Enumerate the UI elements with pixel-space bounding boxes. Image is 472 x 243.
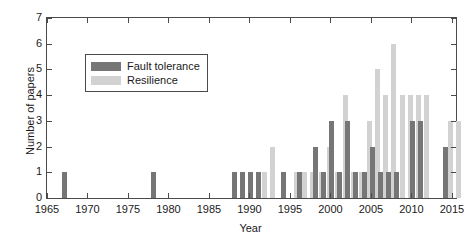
bar-fault_tolerance-2001: [337, 172, 342, 198]
bar-fault_tolerance-2003: [353, 172, 358, 198]
bar-fault_tolerance-1999: [321, 172, 326, 198]
bar-fault_tolerance-2014: [443, 147, 448, 198]
bar-fill: [270, 147, 275, 198]
y-tick-right: [451, 95, 456, 96]
y-tick-right: [451, 121, 456, 122]
y-tick: [47, 121, 52, 122]
y-tick: [47, 172, 52, 173]
bar-fill: [378, 172, 383, 198]
x-tick-top: [411, 18, 412, 23]
bar-resilience-2014: [448, 121, 453, 198]
x-tick-top: [168, 18, 169, 23]
bar-fill: [345, 121, 350, 198]
bar-fill: [151, 172, 156, 198]
bar-fault_tolerance-2007: [386, 172, 391, 198]
x-tick-top: [87, 18, 88, 23]
bar-fill: [370, 147, 375, 198]
legend-swatch: [91, 76, 121, 85]
x-tick: [452, 193, 453, 198]
y-tick-label: 0: [36, 191, 42, 203]
x-tick-label: 2015: [436, 203, 468, 215]
legend-item-0: Fault tolerance: [91, 59, 200, 73]
bar-fault_tolerance-1991: [256, 172, 261, 198]
bar-fill: [424, 95, 429, 198]
bar-resilience-1992: [270, 147, 275, 198]
bar-fill: [400, 95, 405, 198]
y-tick-right: [451, 198, 456, 199]
x-tick-top: [47, 18, 48, 23]
x-tick: [249, 193, 250, 198]
x-tick: [47, 193, 48, 198]
bar-fault_tolerance-1996: [297, 172, 302, 198]
x-tick-label: 1970: [71, 203, 103, 215]
bar-fill: [262, 172, 267, 198]
bar-fill: [297, 172, 302, 198]
x-tick: [128, 193, 129, 198]
bar-resilience-2008: [400, 95, 405, 198]
bar-fill: [240, 172, 245, 198]
y-tick-label: 3: [36, 114, 42, 126]
bar-fault_tolerance-1978: [151, 172, 156, 198]
y-tick: [47, 44, 52, 45]
bar-fill: [329, 121, 334, 198]
y-tick: [47, 198, 52, 199]
legend-label: Resilience: [127, 74, 178, 86]
bar-resilience-1991: [262, 172, 267, 198]
bar-resilience-1996: [302, 172, 307, 198]
y-tick-label: 6: [36, 37, 42, 49]
legend-label: Fault tolerance: [127, 60, 200, 72]
x-tick: [87, 193, 88, 198]
bar-fault_tolerance-2002: [345, 121, 350, 198]
bar-fill: [302, 172, 307, 198]
bar-fill: [362, 172, 367, 198]
x-tick-label: 2005: [355, 203, 387, 215]
bar-resilience-2011: [424, 95, 429, 198]
bar-resilience-2015: [456, 121, 461, 198]
y-tick: [47, 95, 52, 96]
bar-chart-figure: Number of papers 01234567196519701975198…: [0, 0, 472, 243]
y-axis-title: Number of papers: [24, 21, 36, 201]
y-tick-label: 5: [36, 62, 42, 74]
bar-fault_tolerance-2000: [329, 121, 334, 198]
x-tick: [330, 193, 331, 198]
bar-fill: [281, 172, 286, 198]
x-tick-top: [209, 18, 210, 23]
bar-fault_tolerance-1988: [232, 172, 237, 198]
plot-area: 0123456719651970197519801985199019952000…: [46, 17, 457, 199]
y-tick: [47, 69, 52, 70]
bar-fill: [448, 121, 453, 198]
x-tick: [209, 193, 210, 198]
legend-swatch: [91, 62, 121, 71]
x-tick-label: 1985: [193, 203, 225, 215]
x-tick-top: [128, 18, 129, 23]
y-tick-right: [451, 172, 456, 173]
bar-fill: [232, 172, 237, 198]
y-tick-right: [451, 44, 456, 45]
bar-fill: [321, 172, 326, 198]
chart-legend: Fault toleranceResilience: [85, 54, 208, 92]
x-tick-label: 1980: [152, 203, 184, 215]
x-tick-label: 1965: [31, 203, 63, 215]
bar-fill: [410, 121, 415, 198]
y-tick-right: [451, 147, 456, 148]
x-tick-label: 2000: [314, 203, 346, 215]
legend-item-1: Resilience: [91, 73, 200, 87]
bar-fill: [456, 121, 461, 198]
x-tick-label: 1990: [233, 203, 265, 215]
x-tick-top: [452, 18, 453, 23]
y-tick: [47, 147, 52, 148]
bar-fill: [394, 172, 399, 198]
bar-fault_tolerance-1989: [240, 172, 245, 198]
bar-fault_tolerance-1994: [281, 172, 286, 198]
x-tick-top: [290, 18, 291, 23]
x-axis-title: Year: [46, 222, 455, 234]
y-tick-label: 7: [36, 11, 42, 23]
bar-fill: [256, 172, 261, 198]
bar-fault_tolerance-2011: [418, 121, 423, 198]
bar-fault_tolerance-2006: [378, 172, 383, 198]
bar-fill: [353, 172, 358, 198]
bar-fault_tolerance-2008: [394, 172, 399, 198]
y-tick-label: 1: [36, 165, 42, 177]
x-tick-top: [371, 18, 372, 23]
plot-inner: [47, 18, 456, 198]
